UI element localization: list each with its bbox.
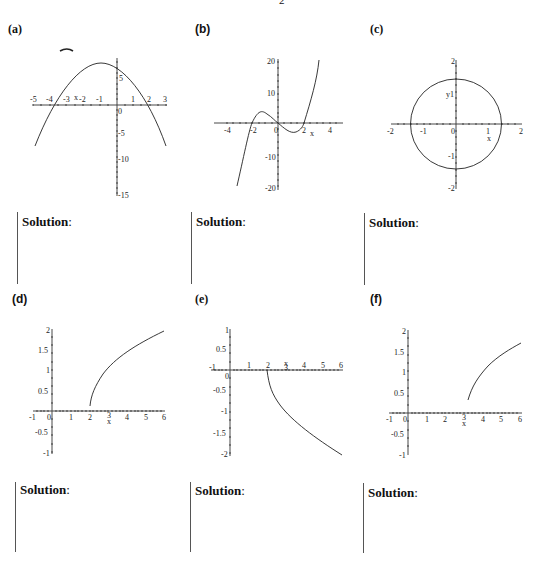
solution-d-text: Solution <box>20 482 66 497</box>
plot-a <box>33 58 167 196</box>
solution-f-line <box>363 483 364 553</box>
solution-b-colon: : <box>242 214 246 229</box>
plot-e <box>211 329 343 456</box>
solution-d-line <box>15 482 16 552</box>
svg-text:-10: -10 <box>118 155 129 164</box>
solution-c-text: Solution <box>369 215 415 230</box>
svg-text:1: 1 <box>131 95 135 104</box>
svg-text:x: x <box>487 134 491 143</box>
solution-e-label: Solution: <box>195 483 245 499</box>
svg-text:2: 2 <box>519 127 523 136</box>
solution-e-colon: : <box>241 483 245 498</box>
svg-text:2: 2 <box>147 95 151 104</box>
svg-text:6: 6 <box>518 415 522 424</box>
svg-text:2: 2 <box>266 361 270 370</box>
plot-f <box>389 330 522 455</box>
svg-text:-1: -1 <box>209 363 216 372</box>
svg-text:2: 2 <box>302 126 306 135</box>
svg-text:-5: -5 <box>118 129 125 138</box>
svg-text:4: 4 <box>302 361 306 370</box>
solution-b-label: Solution: <box>196 214 246 230</box>
svg-text:-1: -1 <box>43 449 50 458</box>
solution-b-line <box>191 212 192 284</box>
svg-text:1: 1 <box>425 415 429 424</box>
solution-f-colon: : <box>414 485 418 500</box>
svg-text:-4: -4 <box>224 126 231 135</box>
plot-c <box>391 60 522 189</box>
svg-text:-2: -2 <box>387 127 394 136</box>
svg-text:-15: -15 <box>118 191 129 200</box>
svg-text:-1: -1 <box>399 451 406 460</box>
solution-f-text: Solution <box>368 485 414 500</box>
svg-text:-2: -2 <box>448 184 455 193</box>
svg-text:x: x <box>462 419 466 428</box>
svg-text:y1: y1 <box>446 90 454 99</box>
svg-text:1.5: 1.5 <box>38 346 48 355</box>
graphs-canvas: -5 -4 -3 x -2 -1 0 1 2 3 5 -5 -10 -15 -4… <box>0 0 535 562</box>
solution-a-text: Solution <box>22 214 68 229</box>
solution-f-label: Solution: <box>368 485 418 501</box>
svg-text:-1: -1 <box>29 413 36 422</box>
solution-a-colon: : <box>68 214 72 229</box>
svg-text:-4: -4 <box>46 95 53 104</box>
svg-text:2: 2 <box>46 326 50 335</box>
svg-text:x: x <box>74 93 78 102</box>
solution-e-line <box>190 482 191 552</box>
svg-text:2: 2 <box>451 57 455 66</box>
svg-text:3: 3 <box>284 363 288 372</box>
solution-d-colon: : <box>66 482 70 497</box>
svg-text:1: 1 <box>46 366 50 375</box>
svg-text:1: 1 <box>247 361 251 370</box>
svg-text:0: 0 <box>225 372 229 381</box>
svg-text:2: 2 <box>443 415 447 424</box>
svg-text:-1: -1 <box>221 407 228 416</box>
svg-text:20: 20 <box>267 57 275 66</box>
svg-text:6: 6 <box>339 361 343 370</box>
svg-text:1: 1 <box>402 368 406 377</box>
svg-text:0: 0 <box>274 126 278 135</box>
svg-text:10: 10 <box>267 89 275 98</box>
svg-text:2: 2 <box>402 327 406 336</box>
svg-text:4: 4 <box>328 126 332 135</box>
svg-text:x: x <box>107 417 111 426</box>
svg-text:4: 4 <box>125 413 129 422</box>
svg-text:-1.5: -1.5 <box>213 429 226 438</box>
svg-text:0.5: 0.5 <box>216 345 226 354</box>
svg-text:-0.5: -0.5 <box>35 428 48 437</box>
solution-a-label: Solution: <box>22 214 72 230</box>
svg-text:-3: -3 <box>63 95 70 104</box>
svg-text:6: 6 <box>162 413 166 422</box>
svg-text:-2: -2 <box>221 450 228 459</box>
svg-text:0: 0 <box>451 127 455 136</box>
svg-text:1: 1 <box>69 413 73 422</box>
svg-text:-5: -5 <box>30 95 37 104</box>
svg-text:3: 3 <box>163 95 167 104</box>
svg-text:5: 5 <box>321 361 325 370</box>
svg-text:0: 0 <box>118 107 122 116</box>
svg-text:-10: -10 <box>265 153 276 162</box>
solution-c-label: Solution: <box>369 215 419 231</box>
solution-a-line <box>17 212 18 284</box>
solution-e-text: Solution <box>195 483 241 498</box>
svg-text:-2: -2 <box>79 95 86 104</box>
svg-text:-0.5: -0.5 <box>213 386 226 395</box>
stray-mark <box>60 49 73 51</box>
svg-text:-20: -20 <box>265 184 276 193</box>
svg-text:0.5: 0.5 <box>38 387 48 396</box>
solution-d-label: Solution: <box>20 482 70 498</box>
plot-d <box>33 329 165 454</box>
svg-text:-1: -1 <box>420 127 427 136</box>
solution-b-text: Solution <box>196 214 242 229</box>
svg-text:5: 5 <box>499 415 503 424</box>
svg-text:1.5: 1.5 <box>394 348 404 357</box>
solution-c-line <box>364 213 365 285</box>
svg-text:-1: -1 <box>386 415 393 424</box>
solution-c-colon: : <box>415 215 419 230</box>
svg-text:-2: -2 <box>250 126 257 135</box>
svg-text:-1: -1 <box>96 95 103 104</box>
svg-text:0: 0 <box>47 413 51 422</box>
svg-text:-1: -1 <box>448 152 455 161</box>
svg-text:5: 5 <box>144 413 148 422</box>
svg-text:2: 2 <box>88 413 92 422</box>
svg-text:0.5: 0.5 <box>394 389 404 398</box>
